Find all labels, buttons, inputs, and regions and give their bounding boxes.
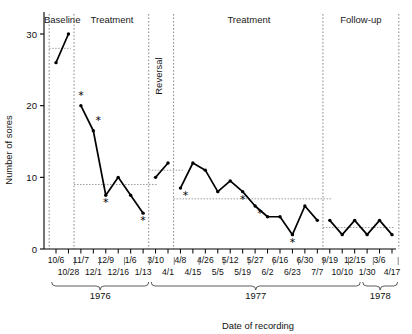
x-tick-label: 12/16: [107, 267, 129, 277]
y-axis-title: Number of sores: [3, 115, 14, 185]
phase-label-baseline: Baseline: [44, 14, 80, 25]
x-tick-label: 5/27: [247, 255, 264, 265]
x-tick-label: 6/16: [272, 255, 289, 265]
phase-label-reversal: Reversal: [153, 57, 164, 95]
x-tick-label: 10/6: [48, 255, 65, 265]
x-tick-label: 1/30: [359, 267, 376, 277]
chart-figure: 0102030 10/610/2811/712/112/912/161/61/1…: [0, 0, 412, 334]
x-tick-label: 4/17: [384, 267, 401, 277]
year-label: 1978: [370, 290, 391, 301]
star-marker: *: [183, 189, 189, 202]
phase-label-treatment1: Treatment: [91, 14, 134, 25]
x-tick-label: 3/6: [374, 255, 386, 265]
x-tick-label: 10/10: [331, 267, 353, 277]
star-marker: *: [78, 89, 84, 102]
phase-label-follow-up: Follow-up: [340, 14, 381, 25]
star-marker: *: [240, 193, 246, 206]
x-tick-label: 12/9: [97, 255, 114, 265]
x-tick-label: 5/5: [212, 267, 224, 277]
y-tick-label: 20: [26, 100, 37, 111]
x-tick-label: 5/12: [222, 255, 239, 265]
x-tick-label: 12/1: [85, 267, 102, 277]
y-tick-label: 10: [26, 172, 37, 183]
x-tick-label: 7/7: [311, 267, 323, 277]
phase-label-treatment2: Treatment: [227, 14, 270, 25]
x-tick-label: 4/26: [197, 255, 214, 265]
year-label: 1977: [245, 290, 266, 301]
x-tick-label: 3/10: [147, 255, 164, 265]
x-tick-label: 6/30: [297, 255, 314, 265]
sores-line-chart: 0102030 10/610/2811/712/112/912/161/61/1…: [0, 0, 412, 334]
y-tick-label: 0: [32, 244, 37, 255]
x-axis-title: Date of recording: [222, 320, 294, 331]
x-tick-label: 4/8: [174, 255, 186, 265]
star-marker: *: [290, 236, 296, 249]
x-tick-label: 1/13: [135, 267, 152, 277]
year-label: 1976: [90, 290, 111, 301]
x-tick-label: 4/1: [162, 267, 174, 277]
x-tick-label: 12/15: [344, 255, 366, 265]
x-tick-label: 5/19: [234, 267, 251, 277]
x-tick-label: 6/2: [262, 267, 274, 277]
x-tick-label: 9/19: [321, 255, 338, 265]
star-marker: *: [103, 196, 109, 209]
x-tick-label: 11/7: [73, 255, 89, 265]
x-tick-label: 6/23: [284, 267, 301, 277]
x-tick-label: 4/15: [185, 267, 202, 277]
star-marker: *: [140, 214, 146, 227]
y-tick-label: 30: [26, 29, 37, 40]
x-tick-label: 10/28: [58, 267, 80, 277]
x-tick-label: 1/6: [125, 255, 137, 265]
star-marker: *: [257, 207, 263, 220]
star-marker: *: [96, 114, 102, 127]
